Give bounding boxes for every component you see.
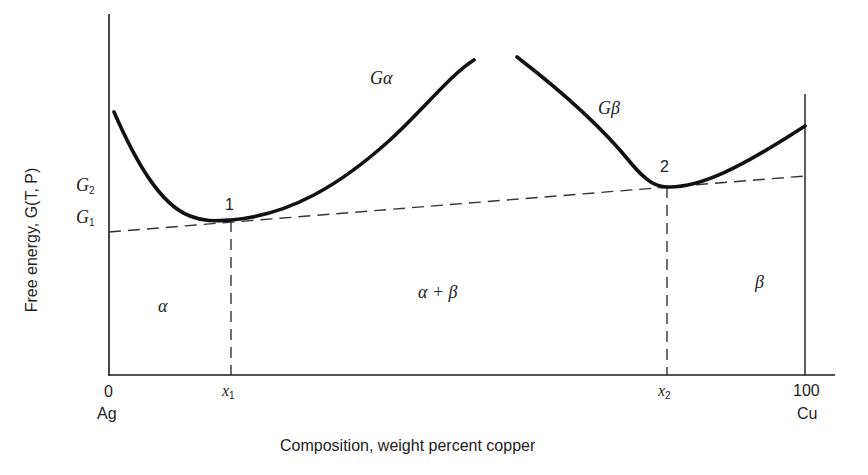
tick-100: 100 [793, 382, 820, 400]
x1-sub: 1 [229, 390, 235, 401]
tick-0: 0 [104, 383, 113, 401]
g-beta-label: Gβ [598, 98, 620, 119]
y-axis-label: Free energy, G(T, P) [23, 168, 41, 313]
diagram-canvas [0, 0, 868, 475]
x2-sub: 2 [665, 390, 671, 401]
tick-cu: Cu [797, 405, 817, 423]
x-axis-label: Composition, weight percent copper [280, 437, 535, 455]
region-beta-label: β [755, 272, 764, 293]
tangent-point-2: 2 [660, 158, 669, 176]
tangent-point-1: 1 [225, 196, 234, 214]
g1-sub: 1 [89, 217, 95, 228]
common-tangent-line [109, 176, 805, 232]
g2-sub: 2 [89, 185, 95, 196]
tick-x1: x1 [222, 382, 235, 401]
g1-main: G [76, 207, 89, 227]
g1-tick-label: G1 [76, 207, 95, 228]
region-alpha-label: α [158, 296, 167, 317]
g-alpha-curve [114, 60, 474, 221]
region-alpha-beta-label: α + β [418, 282, 458, 303]
g-alpha-label: Gα [370, 68, 392, 89]
tick-x2: x2 [658, 382, 671, 401]
g2-main: G [76, 175, 89, 195]
g2-tick-label: G2 [76, 175, 95, 196]
tick-ag: Ag [97, 405, 117, 423]
